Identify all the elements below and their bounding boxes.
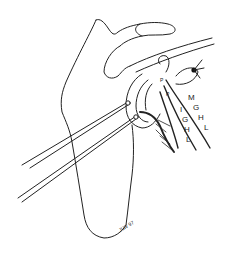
mghl-letter-g: G (193, 103, 199, 112)
acromion-inner (136, 24, 142, 36)
mghl-letter-l: L (204, 123, 209, 132)
mghl-label: M G H L (188, 93, 209, 132)
ighl-letter-l: L (186, 135, 191, 144)
labrum-mark-1: P (160, 77, 164, 83)
coracoid (158, 56, 169, 72)
ighl-letter-h: H (184, 125, 190, 134)
suture-anchor-lower (18, 115, 138, 202)
spine-curve (104, 46, 130, 78)
ighl-band (160, 92, 178, 148)
ighl-letter-g: G (182, 115, 188, 124)
mghl-letter-m: M (188, 93, 195, 102)
labrum-mark-2: P (166, 91, 170, 97)
glenoid-inner (145, 84, 152, 110)
acromion (96, 19, 175, 46)
ighl-letter-i: I (180, 105, 182, 114)
clavicle-upper (130, 38, 212, 66)
mghl-letter-h: H (198, 113, 204, 122)
scapula-diagram: M G H L I G H L P P JLW 97 (0, 0, 229, 253)
